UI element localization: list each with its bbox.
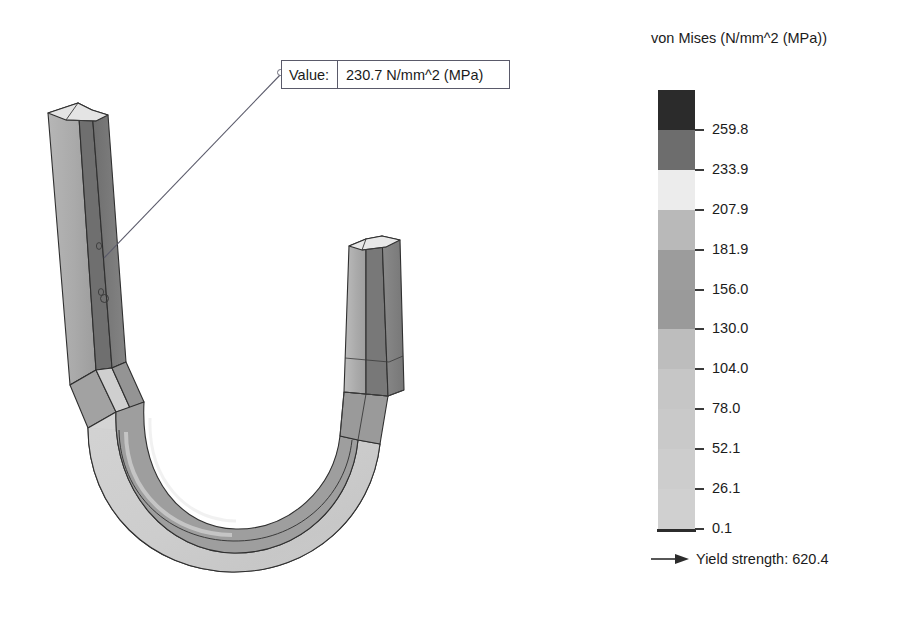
- tick-label-2: 207.9: [712, 202, 748, 216]
- legend-title: von Mises (N/mm^2 (MPa)): [651, 30, 901, 46]
- fea-result-viewport: Value: 230.7 N/mm^2 (MPa) von Mises (N/m…: [0, 0, 908, 622]
- right-transition: [340, 392, 388, 444]
- right-arm-outer-flange: [344, 239, 366, 394]
- probe-point-marker[interactable]: [100, 294, 109, 303]
- tick-10: [695, 528, 704, 530]
- color-band-3: [658, 210, 695, 250]
- color-band-2: [658, 170, 695, 210]
- tick-7: [695, 408, 704, 410]
- tick-8: [695, 448, 704, 450]
- callout-value: 230.7 N/mm^2 (MPa): [337, 61, 509, 88]
- color-bar-ticks: [695, 90, 705, 529]
- yield-strength-label: Yield strength: 620.4: [696, 551, 828, 567]
- color-band-5: [658, 290, 695, 330]
- yield-strength-annotation: Yield strength: 620.4: [651, 550, 828, 568]
- arrow-right-icon: [651, 553, 691, 565]
- tick-5: [695, 328, 704, 330]
- color-band-10: [658, 489, 695, 529]
- tick-label-6: 104.0: [712, 361, 748, 375]
- color-band-1: [658, 130, 695, 170]
- tick-label-4: 156.0: [712, 282, 748, 296]
- tick-label-7: 78.0: [712, 401, 740, 415]
- color-band-8: [658, 409, 695, 449]
- legend-panel: von Mises (N/mm^2 (MPa)) 259.8233.9207.9…: [651, 30, 901, 590]
- tick-2: [695, 209, 704, 211]
- tick-label-0: 259.8: [712, 122, 748, 136]
- tick-label-5: 130.0: [712, 321, 748, 335]
- tick-9: [695, 488, 704, 490]
- color-band-0: [658, 90, 695, 130]
- tick-label-8: 52.1: [712, 441, 740, 455]
- color-band-9: [658, 449, 695, 489]
- tick-label-1: 233.9: [712, 162, 748, 176]
- u-channel-beam-model: [0, 40, 620, 600]
- color-bar-labels: 259.8233.9207.9181.9156.0130.0104.078.05…: [712, 90, 832, 529]
- model-3d-view[interactable]: [0, 40, 620, 600]
- tick-3: [695, 249, 704, 251]
- color-band-4: [658, 250, 695, 290]
- callout-label: Value:: [282, 61, 337, 88]
- color-band-7: [658, 369, 695, 409]
- color-bar[interactable]: [658, 90, 695, 529]
- tick-label-10: 0.1: [712, 521, 732, 535]
- tick-0: [695, 129, 704, 131]
- color-bar-baseline: [657, 529, 696, 532]
- tick-4: [695, 289, 704, 291]
- tick-label-3: 181.9: [712, 242, 748, 256]
- tick-6: [695, 368, 704, 370]
- tick-label-9: 26.1: [712, 481, 740, 495]
- value-callout[interactable]: Value: 230.7 N/mm^2 (MPa): [281, 60, 510, 89]
- color-band-6: [658, 329, 695, 369]
- tick-1: [695, 169, 704, 171]
